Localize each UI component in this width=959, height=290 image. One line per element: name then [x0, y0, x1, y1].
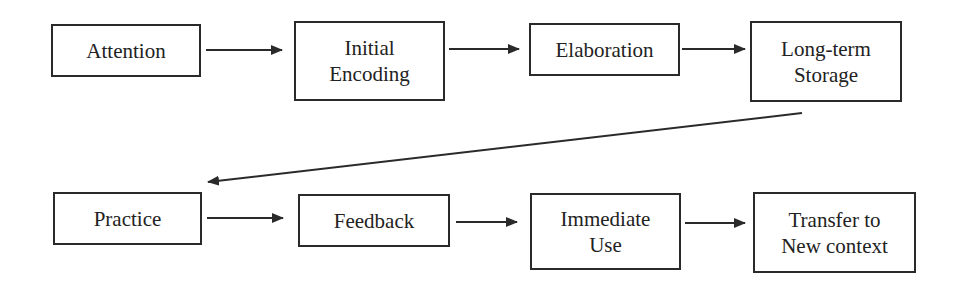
learning-process-diagram: Attention Initial Encoding Elaboration L…	[0, 0, 959, 290]
node-transfer-to-new-context: Transfer to New context	[753, 192, 916, 273]
node-label: Long-term	[781, 36, 871, 62]
node-attention: Attention	[51, 24, 201, 77]
node-label: New context	[781, 233, 888, 259]
node-label: Transfer to	[781, 207, 888, 233]
node-immediate-use: Immediate Use	[530, 193, 681, 270]
node-practice: Practice	[53, 192, 202, 245]
node-feedback: Feedback	[298, 194, 450, 247]
arrow-storage-to-practice	[208, 113, 802, 182]
node-label: Feedback	[334, 208, 414, 234]
node-label: Practice	[94, 206, 162, 232]
node-label: Storage	[781, 62, 871, 88]
node-label: Encoding	[329, 61, 409, 87]
node-label: Elaboration	[556, 37, 654, 63]
node-label: Immediate	[561, 206, 651, 232]
node-label: Use	[561, 232, 651, 258]
node-label: Initial	[329, 35, 409, 61]
node-long-term-storage: Long-term Storage	[750, 21, 902, 102]
node-elaboration: Elaboration	[529, 23, 680, 76]
node-label: Attention	[86, 38, 165, 64]
node-initial-encoding: Initial Encoding	[294, 21, 445, 101]
